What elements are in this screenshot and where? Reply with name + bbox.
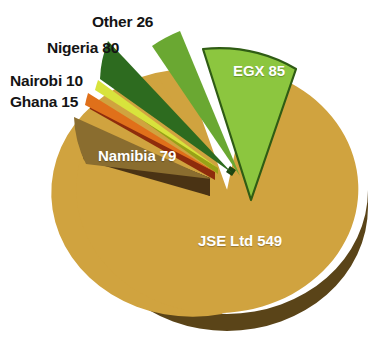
pie-label-jse: JSE Ltd 549 [198, 232, 282, 249]
pie-label-egx: EGX 85 [233, 62, 285, 79]
pie-label-ghana: Ghana 15 [10, 93, 78, 111]
pie-label-nigeria: Nigeria 80 [47, 39, 119, 57]
pie-label-nairobi: Nairobi 10 [10, 72, 83, 90]
pie-label-namibia: Namibia 79 [98, 147, 176, 164]
pie-label-other: Other 26 [92, 13, 153, 31]
pie-chart: Other 26 Nigeria 80 Nairobi 10 Ghana 15 … [0, 0, 392, 353]
pie-slice-jse-top-face [76, 69, 358, 313]
